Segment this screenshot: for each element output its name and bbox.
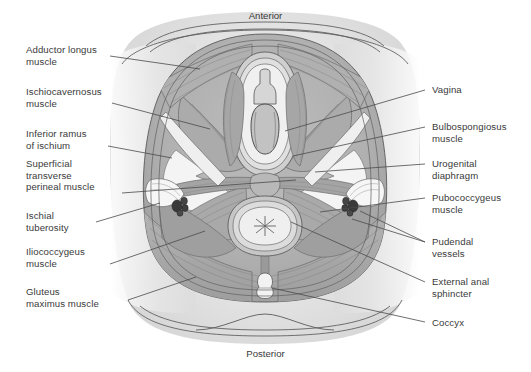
figure-caption [8,360,428,372]
label-ischiocavernosus-muscle: Ischiocavernosus muscle [26,86,102,109]
label-iliococcygeus-muscle: Iliococcygeus muscle [26,246,85,269]
label-inferior-ramus-of-ischium: Inferior ramus of ischium [26,128,87,151]
external-anal-sphincter-group [228,196,302,256]
vagina [251,104,279,154]
orientation-anterior: Anterior [0,10,531,21]
label-coccyx: Coccyx [432,317,464,329]
label-pubococcygeus-muscle: Pubococcygeus muscle [432,192,501,215]
label-urogenital-diaphragm: Urogenital diaphragm [432,158,478,181]
orientation-posterior: Posterior [0,348,531,359]
label-adductor-longus-muscle: Adductor longus muscle [26,44,97,67]
label-ischial-tuberosity: Ischial tuberosity [26,210,69,233]
label-external-anal-sphincter: External anal sphincter [432,276,489,299]
label-superficial-transverse-perineal-muscle: Superficial transverse perineal muscle [26,158,95,193]
label-bulbospongiosus-muscle: Bulbospongiosus muscle [432,121,507,144]
label-pudendal-vessels: Pudendal vessels [432,236,473,259]
perineal-body [250,173,280,198]
pelvic-floor-group [132,34,398,312]
label-gluteus-maximus-muscle: Gluteus maximus muscle [26,286,99,309]
label-vagina: Vagina [432,84,462,96]
coccyx [257,273,274,299]
